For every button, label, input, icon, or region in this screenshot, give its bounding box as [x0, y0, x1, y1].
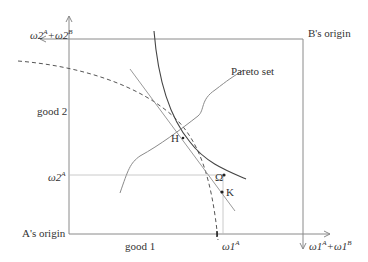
omega1-a-sup: A	[235, 239, 239, 247]
good2-label: good 2	[37, 106, 67, 117]
omega2-a-base: ω2	[48, 171, 61, 183]
omega2-total-sup2: B	[68, 28, 72, 36]
point-k-label: K	[226, 187, 234, 198]
pareto-set-label: Pareto set	[231, 66, 274, 77]
indifference-curve	[154, 31, 246, 179]
omega1-total-mid: +ω1	[327, 240, 348, 252]
point-h-label: H	[171, 133, 179, 144]
point-k-dot	[220, 190, 223, 193]
omega1-a-base: ω1	[222, 240, 235, 252]
dashed-curve	[18, 61, 218, 240]
omega1-total-base: ω1	[309, 240, 322, 252]
omega2-total-mid: +ω2	[48, 29, 69, 41]
b-origin-label: B's origin	[308, 28, 351, 39]
omega2-a-sup: A	[61, 170, 65, 178]
good1-label: good 1	[125, 241, 155, 252]
tangent-line	[130, 69, 235, 211]
point-h-dot	[182, 137, 185, 140]
a-origin-label: A's origin	[22, 228, 65, 239]
omega1-total-sup2: B	[347, 239, 351, 247]
omega2-total-base: ω2	[30, 29, 43, 41]
omega1-total-label: ω1A+ω1B	[309, 240, 352, 252]
point-omega-label: Ω	[215, 172, 223, 183]
omega2-a-label: ω2A	[48, 171, 66, 183]
omega1-a-label: ω1A	[222, 240, 240, 252]
omega2-total-label: ω2A+ω2B	[30, 29, 73, 41]
